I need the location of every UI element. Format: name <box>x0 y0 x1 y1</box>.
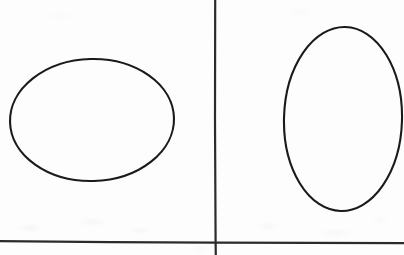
paper-background <box>0 0 404 255</box>
scanned-page <box>0 0 404 255</box>
vertical-divider-line <box>215 0 216 255</box>
figure-canvas <box>0 0 404 255</box>
